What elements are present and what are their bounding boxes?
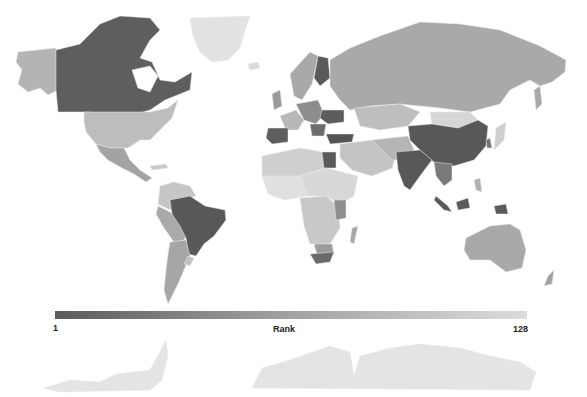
region-egypt[interactable] <box>322 152 336 168</box>
region-philippines[interactable] <box>474 178 482 192</box>
region-korea[interactable] <box>486 138 492 148</box>
region-kenya-tanzania[interactable] <box>334 200 346 220</box>
region-caribbean[interactable] <box>150 164 168 170</box>
region-west-africa[interactable] <box>262 176 308 200</box>
colorbar-title: Rank <box>273 324 295 334</box>
region-russia[interactable] <box>330 22 566 112</box>
region-uk[interactable] <box>272 90 282 110</box>
region-balkans[interactable] <box>310 124 326 136</box>
region-argentina[interactable] <box>164 240 190 304</box>
colorbar <box>55 311 527 319</box>
world-map <box>0 0 587 397</box>
colorbar-min-label: 1 <box>53 323 58 333</box>
region-japan[interactable] <box>494 122 506 150</box>
region-australia[interactable] <box>464 224 526 272</box>
region-kamchatka[interactable] <box>534 86 542 110</box>
region-mexico[interactable] <box>96 144 152 182</box>
region-india[interactable] <box>396 150 432 190</box>
region-iceland[interactable] <box>248 62 260 70</box>
region-southeast-asia[interactable] <box>434 162 452 186</box>
region-canada[interactable] <box>56 16 192 116</box>
region-greenland[interactable] <box>190 16 250 62</box>
region-new-zealand[interactable] <box>544 270 554 286</box>
region-madagascar[interactable] <box>350 226 358 244</box>
region-ukraine[interactable] <box>320 110 344 124</box>
region-antarctica-west[interactable] <box>44 340 168 392</box>
region-alaska[interactable] <box>16 48 58 95</box>
region-spain[interactable] <box>266 128 288 144</box>
region-turkey[interactable] <box>326 134 354 144</box>
region-central-africa[interactable] <box>300 196 340 244</box>
region-indonesia[interactable] <box>434 196 508 214</box>
colorbar-max-label: 128 <box>513 324 528 334</box>
region-antarctica-east[interactable] <box>252 344 536 390</box>
region-south-africa[interactable] <box>310 252 334 264</box>
region-norway-sweden[interactable] <box>290 52 318 100</box>
